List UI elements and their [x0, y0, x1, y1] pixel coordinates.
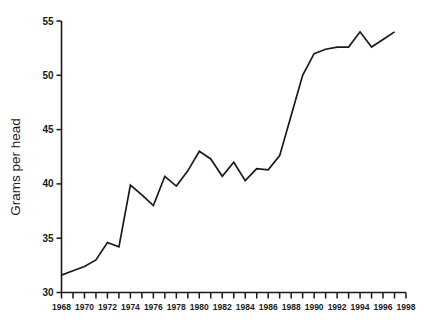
x-tick-label: 1990: [305, 302, 324, 312]
x-tick-label: 1980: [190, 302, 209, 312]
y-tick-label: 35: [42, 233, 54, 244]
x-tick-label: 1976: [144, 302, 163, 312]
y-tick-label: 40: [42, 178, 54, 189]
y-tick-label: 50: [42, 70, 54, 81]
x-tick-label: 1998: [397, 302, 416, 312]
x-tick-label: 1988: [282, 302, 301, 312]
x-tick-label: 1984: [236, 302, 255, 312]
x-tick-label: 1968: [52, 302, 71, 312]
line-chart: 303540455055 196819701972197419761978198…: [0, 0, 431, 334]
x-tick-label: 1992: [328, 302, 347, 312]
y-tick-label: 30: [42, 287, 54, 298]
x-tick-label: 1970: [75, 302, 94, 312]
x-tick-label: 1986: [259, 302, 278, 312]
x-tick-label: 1978: [167, 302, 186, 312]
chart-container: 303540455055 196819701972197419761978198…: [0, 0, 431, 334]
x-tick-label: 1982: [213, 302, 232, 312]
x-tick-label: 1972: [98, 302, 117, 312]
x-tick-label: 1996: [374, 302, 393, 312]
x-tick-label: 1974: [121, 302, 140, 312]
x-tick-label: 1994: [351, 302, 370, 312]
y-tick-label: 55: [42, 16, 54, 27]
y-axis-title: Grams per head: [8, 118, 23, 216]
y-tick-label: 45: [42, 124, 54, 135]
